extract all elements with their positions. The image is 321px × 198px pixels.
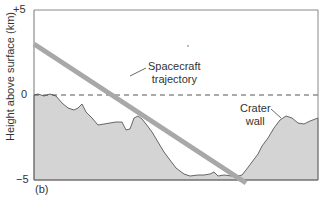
trajectory-label-line2: trajectory <box>148 73 201 86</box>
crater-label-line1: Crater <box>240 102 271 115</box>
trajectory-label-line1: Spacecraft <box>148 60 201 73</box>
crater-wall-annotation: Crater wall <box>240 102 271 128</box>
chart-plot <box>0 0 321 198</box>
speck <box>187 45 189 47</box>
trajectory-leader-line <box>130 68 146 76</box>
crater-leader-line <box>271 109 281 118</box>
trajectory-annotation: Spacecraft trajectory <box>148 60 201 86</box>
crater-label-line2: wall <box>240 115 271 128</box>
